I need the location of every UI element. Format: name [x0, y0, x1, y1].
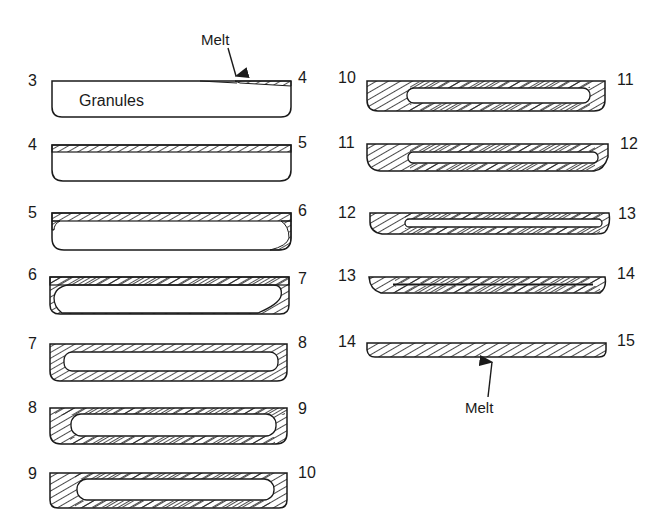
stage-12-13-shape [370, 213, 610, 234]
stage-label-14-start: 14 [338, 334, 356, 350]
stage-8-9-shape [50, 408, 287, 444]
stage-label-8-end: 9 [298, 401, 307, 417]
stage-label-10-end: 11 [617, 72, 634, 88]
stage-5-6-shape [52, 213, 291, 250]
stage-11-12-shape [367, 144, 608, 171]
stage-9-10-shape [50, 473, 287, 508]
stage-label-14-end: 15 [617, 333, 635, 349]
stage-4-5-shape [52, 145, 291, 181]
stage-label-7-end: 8 [298, 335, 307, 351]
stage-7-8-shape [50, 344, 287, 381]
stage-label-3-start: 3 [28, 73, 37, 89]
stage-10-11-shape [367, 81, 605, 111]
stage-label-13-end: 14 [617, 266, 635, 282]
stage-label-6-end: 7 [298, 271, 307, 287]
stage-label-10-start: 10 [338, 70, 356, 86]
stage-label-6-start: 6 [28, 267, 37, 283]
melt-label-top: Melt [201, 32, 229, 47]
granules-label: Granules [79, 93, 144, 108]
stage-label-4-start: 4 [28, 137, 37, 153]
melt-label-bottom: Melt [465, 400, 493, 415]
stage-label-11-start: 11 [338, 135, 355, 151]
stage-label-11-end: 12 [620, 136, 638, 152]
stage-label-5-end: 6 [298, 203, 307, 219]
stage-label-4-end: 5 [298, 135, 307, 151]
stage-6-7-shape [50, 277, 289, 314]
stage-label-7-start: 7 [28, 336, 37, 352]
stage-13-14-shape [369, 277, 605, 293]
stage-label-12-start: 12 [338, 205, 356, 221]
stage-label-3-end: 4 [298, 70, 307, 86]
stage-label-9-start: 9 [28, 466, 37, 482]
stage-label-12-end: 13 [618, 206, 636, 222]
stage-label-13-start: 13 [338, 268, 356, 284]
stage-label-9-end: 10 [298, 465, 316, 481]
melt-arrow-top [228, 48, 236, 76]
stage-label-5-start: 5 [28, 205, 37, 221]
melt-arrow-bottom [488, 362, 492, 397]
stage-14-15-shape [367, 343, 606, 357]
stage-label-8-start: 8 [28, 400, 37, 416]
diagram-canvas [0, 0, 658, 531]
